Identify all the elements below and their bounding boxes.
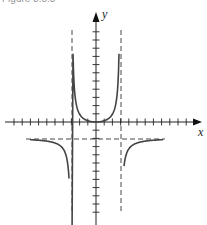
right-branch-curve: [124, 140, 163, 166]
graph: x y: [0, 0, 207, 225]
x-axis-label: x: [197, 125, 204, 139]
left-branch-curve: [30, 140, 69, 179]
y-axis-label: y: [101, 7, 108, 21]
y-axis-arrow-icon: [93, 12, 100, 22]
